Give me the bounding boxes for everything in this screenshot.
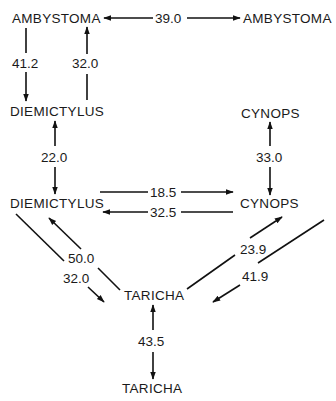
edge-taricha-taricha: 43.5	[138, 305, 164, 379]
arrow-down-left-icon	[213, 285, 240, 302]
edge-cynops-cynops: 33.0	[256, 122, 282, 195]
node-diemictylus-top: DIEMICTYLUS	[10, 104, 104, 119]
edge-label-50-0: 50.0	[68, 251, 94, 266]
arrow-down-right-icon	[88, 287, 104, 302]
arrow-up-right-icon	[250, 217, 282, 238]
node-taricha-middle: TARICHA	[124, 288, 184, 303]
node-cynops-middle: CYNOPS	[240, 196, 299, 211]
edge-label-33-0: 33.0	[256, 150, 282, 165]
edge-label-32-5: 32.5	[150, 205, 176, 220]
edge-ambystoma-to-diemictylus: 41.2	[12, 28, 38, 101]
edge-diemictylus-diemictylus: 22.0	[41, 121, 67, 194]
edge-label-41-9: 41.9	[242, 269, 268, 284]
edge-label-32-0-top: 32.0	[72, 56, 98, 71]
arrow-up-left-icon	[49, 218, 81, 249]
node-taricha-bottom: TARICHA	[122, 381, 182, 396]
node-ambystoma-right: AMBYSTOMA	[243, 11, 332, 26]
edge-ambystoma-ambystoma: 39.0	[104, 11, 240, 26]
node-ambystoma-left: AMBYSTOMA	[12, 11, 101, 26]
edge-diemictylus-to-cynops: 18.5	[100, 185, 233, 200]
edge-label-23-9: 23.9	[240, 242, 266, 257]
distance-diagram: AMBYSTOMA AMBYSTOMA DIEMICTYLUS CYNOPS D…	[0, 0, 336, 401]
node-diemictylus-middle: DIEMICTYLUS	[10, 196, 104, 211]
edge-label-43-5: 43.5	[138, 334, 164, 349]
edge-label-18-5: 18.5	[150, 185, 176, 200]
edge-label-39-0: 39.0	[155, 11, 181, 26]
edge-label-32-0-lower: 32.0	[63, 271, 89, 286]
edge-label-41-2: 41.2	[12, 56, 38, 71]
edge-cynops-to-diemictylus: 32.5	[103, 205, 233, 220]
edge-diemictylus-to-ambystoma: 32.0	[72, 27, 98, 100]
edge-cynops-to-taricha: 41.9	[213, 220, 324, 302]
edge-label-22-0: 22.0	[41, 150, 67, 165]
node-cynops-top: CYNOPS	[241, 106, 300, 121]
